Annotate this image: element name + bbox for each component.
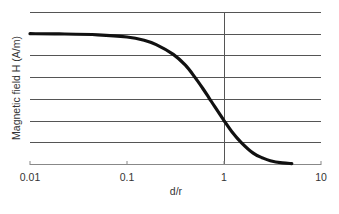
x-tick-label: 0.01	[20, 171, 41, 183]
x-tick-label: 1	[221, 171, 227, 183]
chart: 0.010.1110 d/r Magnetic field H (A/m)	[0, 0, 339, 214]
y-axis-label: Magnetic field H (A/m)	[10, 36, 22, 140]
x-tick-label: 0.1	[120, 171, 135, 183]
x-axis-label: d/r	[170, 185, 183, 197]
x-tick-label: 10	[315, 171, 327, 183]
data-line	[30, 34, 292, 164]
gridlines	[30, 13, 321, 143]
